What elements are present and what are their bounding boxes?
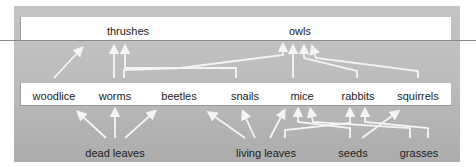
arrow-beetles-owls — [124, 47, 283, 78]
node-woodlice: woodlice — [33, 90, 76, 102]
node-owls: owls — [289, 25, 311, 37]
arrow-livingleaves-mice-a — [244, 114, 255, 138]
arrow-woodlice-thrushes — [54, 50, 80, 78]
arrow-livingleaves-mice-b — [270, 113, 283, 138]
arrow-deadleaves-beetles — [125, 113, 153, 138]
node-seeds: seeds — [338, 147, 367, 159]
node-thrushes: thrushes — [107, 25, 149, 37]
arrow-deadleaves-woodlice — [80, 114, 106, 138]
arrow-seeds-mice — [298, 112, 350, 138]
node-snails: snails — [231, 90, 259, 102]
node-grasses: grasses — [400, 147, 439, 159]
arrow-livingleaves-snails — [211, 114, 245, 138]
node-rabbits: rabbits — [341, 90, 374, 102]
node-beetles: beetles — [161, 90, 196, 102]
node-living-leaves: living leaves — [236, 147, 296, 159]
food-web-arrows — [0, 0, 476, 167]
arrow-rabbits-owls — [304, 49, 357, 78]
node-worms: worms — [99, 90, 131, 102]
node-squirrels: squirrels — [397, 90, 439, 102]
node-mice: mice — [290, 90, 313, 102]
node-dead-leaves: dead leaves — [85, 147, 144, 159]
